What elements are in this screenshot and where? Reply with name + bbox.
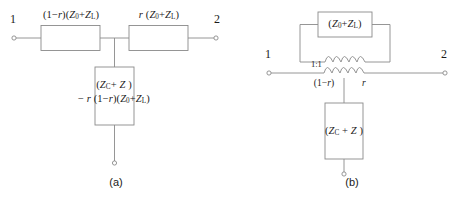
- panel-b-caption: (b): [345, 177, 358, 189]
- panel-b-terminal-1-node: [267, 71, 271, 75]
- figure-root: 1 2 (1−r)(Z0+ZL) r (Z0+ZL) (ZC+ Z ) − r …: [0, 0, 467, 197]
- panel-a-series-left-label: (1−r)(Z0+ZL): [43, 9, 99, 22]
- panel-a-caption: (a): [109, 177, 122, 189]
- panel-a-ground-node: [112, 161, 116, 165]
- panel-b-terminal-2-label: 2: [441, 48, 447, 61]
- panel-a-shunt-label-line2: − r (1−r)(Z0+ZL): [78, 93, 150, 106]
- panel-a-terminal-1-node: [12, 36, 16, 40]
- panel-a-terminal-2-node: [214, 36, 218, 40]
- panel-b-secondary-winding-coil: [325, 57, 365, 63]
- circuit-schematic-svg: [0, 0, 467, 197]
- panel-b-transformer-ratio-label: 1:1: [311, 60, 322, 69]
- panel-a-series-left-box: [41, 26, 100, 51]
- panel-b-graphics: [267, 12, 447, 176]
- panel-b-winding-right-label: r: [362, 79, 366, 89]
- panel-a-terminal-2-label: 2: [214, 13, 220, 26]
- panel-b-top-box-label: (Z0+ZL): [328, 18, 361, 31]
- panel-b-shunt-box-label: (ZC + Z ): [325, 125, 363, 138]
- panel-a-terminal-1-label: 1: [10, 13, 16, 26]
- panel-b-winding-left-label: (1−r): [314, 79, 335, 89]
- panel-a-series-right-box: [129, 26, 188, 51]
- panel-a-series-right-label: r (Z0+ZL): [139, 9, 179, 22]
- panel-b-terminal-2-node: [443, 71, 447, 75]
- panel-b-primary-winding-coil: [324, 68, 364, 74]
- panel-a-shunt-label-line1: (ZC+ Z ): [96, 79, 132, 92]
- panel-b-terminal-1-label: 1: [265, 48, 271, 61]
